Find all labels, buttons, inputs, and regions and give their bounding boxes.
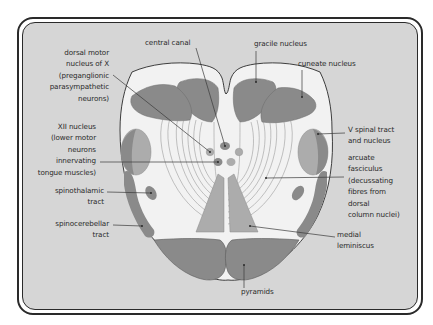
pyramid-left: [154, 239, 227, 281]
label-cuneate-nucleus: cuneate nucleus: [298, 58, 356, 69]
label-central-canal: central canal: [145, 37, 190, 48]
label-medial-lemniscus: medial leminiscus: [337, 229, 374, 252]
label-arcuate-fasciculus: arcuate fasciculus (decussating fibres f…: [348, 152, 400, 220]
leader-spinocerebellar: [113, 225, 142, 226]
label-spinothalamic-tract: spinothalamic tract: [40, 185, 104, 208]
xii-nucleus-right: [227, 158, 236, 166]
label-dorsal-motor-nucleus: dorsal motor nucleus of X (preganglionic…: [40, 47, 109, 104]
label-gracile-nucleus: gracile nucleus: [254, 38, 307, 49]
label-v-spinal-tract: V spinal tract and nucleus: [348, 124, 394, 147]
pyramid-right: [225, 239, 299, 281]
label-xii-nucleus: XII nucleus (lower motor neurons innerva…: [30, 121, 96, 178]
label-pyramids: pyramids: [241, 286, 274, 297]
dorsal-motor-nucleus-right: [235, 148, 243, 156]
label-spinocerebellar-tract: spinocerebellar tract: [40, 218, 109, 241]
